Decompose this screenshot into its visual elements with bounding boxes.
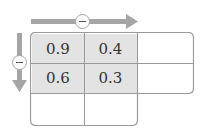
cell-r3c2 (84, 94, 137, 124)
arrow-right-icon (126, 14, 138, 29)
row-divider (31, 63, 193, 64)
arrow-down-icon (12, 80, 27, 92)
cell-r1c2: 0.4 (84, 34, 137, 63)
cell-r2c1: 0.6 (32, 63, 84, 93)
cell-r1c1: 0.9 (32, 34, 84, 63)
cell-r2c3 (138, 63, 192, 93)
cell-r3c1 (32, 94, 84, 124)
column-divider (137, 33, 138, 94)
minus-operator-icon (12, 55, 27, 70)
cell-r2c2: 0.3 (84, 63, 137, 93)
column-divider (84, 33, 85, 125)
cell-r1c3 (138, 34, 192, 63)
minus-operator-icon (75, 14, 90, 29)
